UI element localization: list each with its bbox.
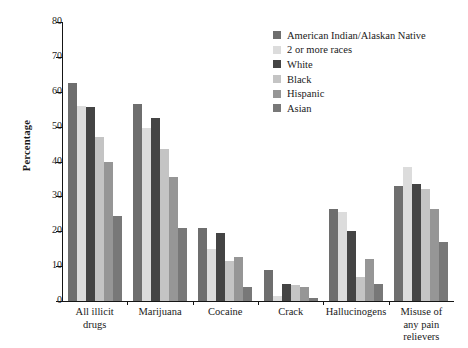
y-tick-label: 0 xyxy=(26,294,62,305)
legend-swatch-icon xyxy=(273,75,281,83)
legend-swatch-icon xyxy=(273,46,281,54)
bar xyxy=(225,261,234,301)
bar xyxy=(198,228,207,301)
x-axis-label-line: Misuse of xyxy=(381,306,462,319)
bar xyxy=(142,128,151,301)
bar xyxy=(104,162,113,302)
legend-swatch-icon xyxy=(273,104,281,112)
bar xyxy=(160,149,169,301)
legend-item: 2 or more races xyxy=(273,43,426,58)
y-tick-0: 0 xyxy=(0,301,62,302)
bar xyxy=(430,209,439,301)
y-tick-label: 40 xyxy=(26,155,62,166)
bar xyxy=(178,228,187,301)
x-axis-group-tick xyxy=(389,301,390,305)
bar-group xyxy=(198,22,252,301)
x-axis-label: Misuse ofany painrelievers xyxy=(381,306,462,344)
bar xyxy=(113,216,122,301)
bar xyxy=(169,177,178,301)
y-tick-label: 50 xyxy=(26,120,62,131)
y-tick-label: 60 xyxy=(26,85,62,96)
y-tick-label: 10 xyxy=(26,259,62,270)
legend-item: Black xyxy=(273,72,426,87)
bar xyxy=(291,285,300,301)
x-axis-group-tick xyxy=(127,301,128,305)
legend-swatch-icon xyxy=(273,31,281,39)
bar xyxy=(216,233,225,301)
bar xyxy=(264,270,273,301)
bar xyxy=(329,209,338,301)
y-tick-50: 50 xyxy=(0,127,62,128)
y-tick-label: 30 xyxy=(26,189,62,200)
y-tick-60: 60 xyxy=(0,92,62,93)
bar xyxy=(68,83,77,301)
legend-item: White xyxy=(273,57,426,72)
bar xyxy=(439,242,448,301)
bar xyxy=(394,186,403,301)
y-tick-30: 30 xyxy=(0,196,62,197)
x-axis-label-line: drugs xyxy=(54,319,135,332)
y-tick-80: 80 xyxy=(0,22,62,23)
y-tick-40: 40 xyxy=(0,162,62,163)
legend-label: American Indian/Alaskan Native xyxy=(287,30,426,41)
bar xyxy=(309,298,318,301)
bar xyxy=(412,184,421,301)
legend-item: Asian xyxy=(273,101,426,116)
legend-label: Black xyxy=(287,74,312,85)
bar xyxy=(300,287,309,301)
bar xyxy=(207,249,216,301)
legend-label: Hispanic xyxy=(287,88,324,99)
legend-item: American Indian/Alaskan Native xyxy=(273,28,426,43)
x-axis-group-tick xyxy=(258,301,259,305)
bar xyxy=(365,259,374,301)
bar-group xyxy=(68,22,122,301)
bar xyxy=(347,231,356,301)
y-tick-10: 10 xyxy=(0,266,62,267)
bar xyxy=(338,212,347,301)
y-tick-label: 70 xyxy=(26,50,62,61)
grouped-bar-chart: Percentage 01020304050607080 All illicit… xyxy=(0,0,468,348)
bar xyxy=(243,287,252,301)
legend-swatch-icon xyxy=(273,60,281,68)
x-axis-group-tick xyxy=(193,301,194,305)
x-axis-label-line: relievers xyxy=(381,331,462,344)
bar xyxy=(133,104,142,301)
bar xyxy=(403,167,412,301)
legend-swatch-icon xyxy=(273,90,281,98)
legend-label: Asian xyxy=(287,103,312,114)
y-tick-label: 20 xyxy=(26,224,62,235)
y-tick-20: 20 xyxy=(0,231,62,232)
bar xyxy=(421,189,430,301)
bar xyxy=(95,137,104,301)
bar xyxy=(356,277,365,301)
bar xyxy=(77,106,86,301)
bar xyxy=(374,284,383,301)
bar xyxy=(151,118,160,301)
y-tick-70: 70 xyxy=(0,57,62,58)
bar xyxy=(282,284,291,301)
bar xyxy=(86,107,95,301)
bar xyxy=(234,257,243,301)
chart-legend: American Indian/Alaskan Native2 or more … xyxy=(273,28,426,116)
legend-label: White xyxy=(287,59,313,70)
y-tick-label: 80 xyxy=(26,15,62,26)
y-axis-title: Percentage xyxy=(21,91,32,201)
bar-group xyxy=(133,22,187,301)
legend-item: Hispanic xyxy=(273,86,426,101)
x-axis-group-tick xyxy=(323,301,324,305)
legend-label: 2 or more races xyxy=(287,44,352,55)
bar xyxy=(273,296,282,301)
x-axis-label-line: any pain xyxy=(381,319,462,332)
